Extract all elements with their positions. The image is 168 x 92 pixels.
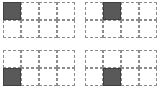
grid-cell-empty[interactable] — [85, 20, 103, 38]
grid-cell-empty[interactable] — [85, 2, 103, 20]
grid-cell-filled[interactable] — [3, 68, 21, 86]
grid-cell-empty[interactable] — [39, 20, 57, 38]
cell-grid — [3, 2, 75, 38]
cell-grid — [85, 50, 157, 86]
grid-cell-empty[interactable] — [121, 50, 139, 68]
grid-cell-empty[interactable] — [21, 2, 39, 20]
grid-cell-empty[interactable] — [57, 68, 75, 86]
grid-cell-empty[interactable] — [39, 2, 57, 20]
cell-grid — [3, 50, 75, 86]
panel-top-left[interactable] — [3, 2, 75, 38]
grid-cell-empty[interactable] — [57, 50, 75, 68]
grid-cell-filled[interactable] — [103, 2, 121, 20]
panel-bottom-right[interactable] — [85, 50, 157, 86]
grid-cell-empty[interactable] — [103, 50, 121, 68]
cell-grid — [85, 2, 157, 38]
grid-cell-empty[interactable] — [39, 68, 57, 86]
grid-cell-empty[interactable] — [3, 50, 21, 68]
panel-bottom-left[interactable] — [3, 50, 75, 86]
grid-cell-empty[interactable] — [85, 50, 103, 68]
grid-cell-empty[interactable] — [121, 20, 139, 38]
grid-cell-empty[interactable] — [3, 20, 21, 38]
grid-cell-empty[interactable] — [85, 68, 103, 86]
grid-cell-empty[interactable] — [121, 68, 139, 86]
grid-cell-empty[interactable] — [139, 2, 157, 20]
grid-figure — [0, 0, 168, 92]
grid-cell-empty[interactable] — [139, 50, 157, 68]
grid-cell-empty[interactable] — [57, 2, 75, 20]
grid-cell-empty[interactable] — [21, 68, 39, 86]
grid-cell-empty[interactable] — [103, 20, 121, 38]
panel-row-top — [3, 2, 157, 38]
grid-cell-empty[interactable] — [121, 2, 139, 20]
grid-cell-empty[interactable] — [39, 50, 57, 68]
grid-cell-empty[interactable] — [21, 50, 39, 68]
grid-cell-empty[interactable] — [139, 20, 157, 38]
grid-cell-filled[interactable] — [3, 2, 21, 20]
grid-cell-empty[interactable] — [21, 20, 39, 38]
panel-row-bottom — [3, 50, 157, 86]
panel-top-right[interactable] — [85, 2, 157, 38]
grid-cell-empty[interactable] — [139, 68, 157, 86]
grid-cell-empty[interactable] — [57, 20, 75, 38]
grid-cell-filled[interactable] — [103, 68, 121, 86]
